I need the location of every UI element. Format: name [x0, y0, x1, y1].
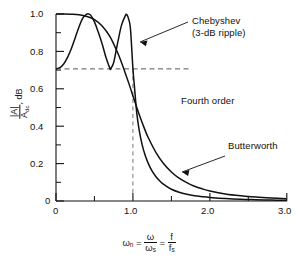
- y-tick-label-1-0: 1.0: [30, 8, 44, 19]
- x-axis-label-fraction-2: f fs: [168, 232, 176, 252]
- chebyshev-annotation-line1: Chebyshev: [192, 15, 246, 27]
- y-tick-label-0: 0: [45, 195, 50, 206]
- y-axis-label-denominator: Adc: [21, 104, 30, 118]
- y-axis-label-suffix: , dB: [14, 88, 24, 104]
- x-tick-label-2-0: 2.0: [201, 205, 215, 216]
- y-tick-label-0-2: 0.2: [30, 158, 44, 169]
- x-axis-label-equals-2: =: [160, 237, 166, 248]
- y-tick-label-0-8: 0.8: [30, 46, 44, 57]
- x-axis-label-omega-n: ωn: [122, 237, 133, 248]
- y-axis-label-fraction: |A| Adc: [10, 104, 29, 118]
- butterworth-leader-arrow: [182, 156, 225, 176]
- butterworth-curve: [56, 14, 287, 199]
- x-axis-label-fraction-1: ω ωs: [144, 232, 157, 252]
- butterworth-annotation: Butterworth: [228, 140, 278, 152]
- x-axis-label: ωn = ω ωs = f fs: [0, 232, 298, 252]
- x-tick-label-1-0: 1.0: [124, 205, 138, 216]
- filter-response-figure: 1.0 0.8 0.6 0.4 0.2 0 0 1.0 2.0 3.0 Cheb…: [0, 0, 298, 261]
- x-tick-label-0: 0: [53, 205, 58, 216]
- x-axis-label-equals-1: =: [136, 237, 142, 248]
- chart-canvas: [0, 0, 298, 261]
- x-tick-label-3-0: 3.0: [278, 205, 292, 216]
- chebyshev-annotation-line2: (3-dB ripple): [192, 27, 246, 39]
- fourth-order-annotation: Fourth order: [181, 95, 234, 107]
- y-minor-ticks: [56, 33, 61, 183]
- y-axis-label: |A| Adc , dB: [2, 78, 36, 138]
- chebyshev-annotation: Chebyshev (3-dB ripple): [192, 15, 246, 38]
- chebyshev-leader-arrow: [140, 22, 188, 46]
